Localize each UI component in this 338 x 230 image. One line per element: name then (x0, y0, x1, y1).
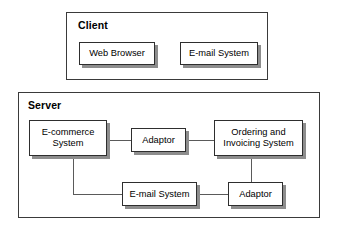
node-server-email-system-label: E-mail System (128, 189, 192, 200)
node-client-email-system[interactable]: E-mail System (180, 42, 258, 65)
node-server-email-system[interactable]: E-mail System (122, 182, 197, 206)
connector-ecommerce-to-adaptor-top (106, 140, 132, 141)
node-adaptor-bottom-label: Adaptor (237, 189, 274, 200)
node-ordering-invoicing-system[interactable]: Ordering and Invoicing System (214, 120, 303, 156)
connector-adaptor-top-to-ordering (185, 140, 215, 141)
node-client-email-system-label: E-mail System (187, 48, 251, 59)
connector-ecommerce-to-email-horizontal (73, 194, 123, 195)
node-web-browser[interactable]: Web Browser (79, 42, 155, 65)
connector-ordering-to-adaptor-bottom (251, 155, 252, 183)
node-adaptor-bottom[interactable]: Adaptor (228, 182, 283, 206)
connector-ecommerce-to-email-vertical (73, 155, 74, 194)
node-adaptor-top[interactable]: Adaptor (131, 128, 186, 152)
node-ecommerce-system[interactable]: E-commerce System (29, 120, 107, 156)
node-adaptor-top-label: Adaptor (140, 135, 177, 146)
server-tier-label: Server (28, 100, 61, 111)
node-ordering-invoicing-system-label: Ordering and Invoicing System (221, 127, 295, 148)
node-ecommerce-system-label: E-commerce System (40, 127, 97, 148)
connector-email-to-adaptor-bottom (196, 194, 229, 195)
client-tier-label: Client (78, 20, 108, 31)
node-web-browser-label: Web Browser (87, 48, 147, 59)
architecture-diagram: Client Web Browser E-mail System Server … (0, 0, 338, 230)
